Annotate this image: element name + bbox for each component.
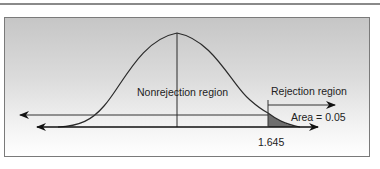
critical-value-tick-label: 1.645 [258, 136, 284, 148]
rejection-label: Rejection region [271, 85, 347, 97]
normal-distribution-chart: Nonrejection region Rejection region Are… [0, 0, 380, 169]
nonrejection-label: Nonrejection region [137, 86, 228, 98]
bell-curve [58, 33, 300, 127]
area-label: Area = 0.05 [291, 111, 346, 123]
